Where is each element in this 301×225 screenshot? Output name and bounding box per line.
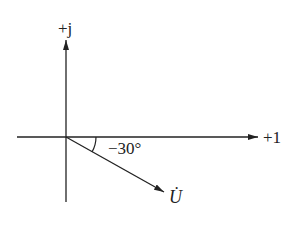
- angle-arc: [92, 137, 96, 152]
- real-axis-label: +1: [263, 128, 281, 147]
- phasor-diagram: +j +1 −30° U̇: [0, 0, 301, 225]
- angle-label: −30°: [108, 139, 141, 158]
- phasor-u-label: U̇: [169, 186, 183, 207]
- imaginary-axis-label: +j: [58, 19, 72, 38]
